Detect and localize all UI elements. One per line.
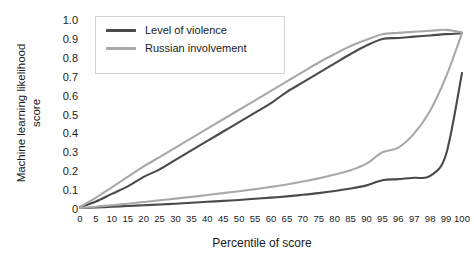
x-tick-label: 10 (107, 213, 118, 225)
x-tick-label: 15 (122, 213, 133, 225)
x-tick-label: 55 (250, 213, 261, 225)
x-tick-label: 90 (361, 213, 372, 225)
x-tick-label: 65 (282, 213, 293, 225)
x-tick-label: 75 (313, 213, 324, 225)
legend-swatch-russian-involvement (106, 47, 136, 50)
x-tick-label: 60 (266, 213, 277, 225)
legend-label-level-of-violence: Level of violence (145, 24, 227, 37)
legend-item-russian-involvement: Russian involvement (106, 42, 276, 55)
legend-swatch-level-of-violence (106, 29, 136, 32)
x-tick-label: 20 (138, 213, 149, 225)
x-tick-label: 5 (93, 213, 98, 225)
x-tick-label: 96 (393, 213, 404, 225)
x-tick-label: 99 (441, 213, 452, 225)
legend-item-level-of-violence: Level of violence (106, 24, 276, 37)
legend-label-russian-involvement: Russian involvement (145, 42, 247, 55)
x-tick-label: 97 (409, 213, 420, 225)
x-tick-label: 80 (329, 213, 340, 225)
chart-legend: Level of violence Russian involvement (95, 16, 285, 74)
x-tick-label: 70 (298, 213, 309, 225)
x-tick-label: 95 (377, 213, 388, 225)
x-tick-label: 100 (454, 213, 470, 225)
x-axis-tick-labels: 0510152025303540455055606570758085909596… (0, 213, 474, 227)
x-tick-label: 0 (77, 213, 82, 225)
x-tick-label: 50 (234, 213, 245, 225)
x-tick-label: 35 (186, 213, 197, 225)
chart-figure: Machine learning likelihood score 00.10.… (0, 0, 474, 259)
x-tick-label: 45 (218, 213, 229, 225)
x-tick-label: 40 (202, 213, 213, 225)
x-tick-label: 85 (345, 213, 356, 225)
x-tick-label: 25 (154, 213, 165, 225)
x-tick-label: 30 (170, 213, 181, 225)
x-axis-title: Percentile of score (60, 236, 464, 250)
x-tick-label: 98 (425, 213, 436, 225)
